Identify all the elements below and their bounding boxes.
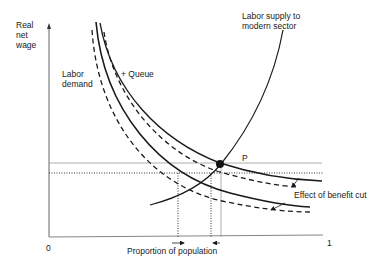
labor-market-diagram: Real net wage Labor demand + Queue Labor…: [0, 0, 387, 268]
queue-label: + Queue: [121, 69, 154, 79]
labor-demand-label: Labor demand: [62, 69, 93, 89]
curve-demand-plus-queue-cut: [104, 32, 298, 187]
y-axis-arrowhead-icon: [47, 23, 51, 29]
curve-labor-demand: [96, 22, 310, 207]
x-origin-label: 0: [46, 243, 51, 253]
diagram-canvas: [0, 0, 387, 268]
curve-demand-plus-queue: [100, 23, 322, 181]
x-axis-label: Proportion of population: [127, 246, 217, 256]
point-p-label: P: [242, 153, 248, 163]
x-end-label: 1: [327, 238, 332, 248]
equilibrium-point-p: [216, 160, 224, 168]
effect-of-benefit-cut-label: Effect of benefit cut: [294, 190, 367, 200]
x-axis: [49, 235, 323, 237]
labor-supply-label: Labor supply to modern sector: [242, 11, 300, 31]
demand-curves: [92, 22, 322, 212]
y-axis-label: Real net wage: [16, 20, 36, 50]
